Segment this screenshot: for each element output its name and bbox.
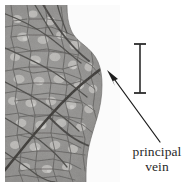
- leaf-venation-figure: principal vein: [0, 0, 193, 188]
- annotation-label-line-2: vein: [122, 160, 192, 175]
- annotation-arrow: [100, 62, 166, 148]
- annotation-label: principal vein: [122, 145, 192, 174]
- annotation-label-line-1: principal: [122, 145, 192, 160]
- arrow-head: [107, 70, 118, 86]
- arrow-shaft: [112, 76, 160, 142]
